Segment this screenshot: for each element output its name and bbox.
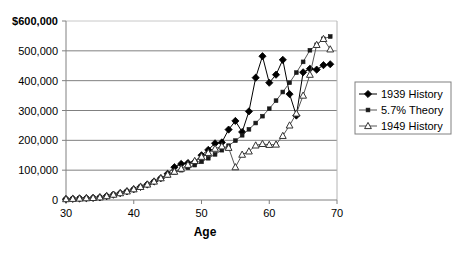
- y-tick-label: 0: [52, 194, 58, 206]
- data-point-marker: [206, 156, 210, 160]
- data-point-marker: [247, 127, 251, 131]
- data-point-marker: [327, 61, 334, 68]
- y-tick-label: 200,000: [18, 134, 58, 146]
- data-point-marker: [294, 71, 298, 75]
- chart-legend: 1939 History5.7% Theory1949 History: [355, 82, 451, 134]
- x-tick-label: 30: [60, 207, 72, 219]
- x-tick-labels: 3040506070: [60, 207, 343, 219]
- series-line: [66, 39, 330, 199]
- x-tick-label: 60: [263, 207, 275, 219]
- y-tick-label: 300,000: [18, 105, 58, 117]
- data-point-marker: [300, 92, 307, 98]
- data-point-marker: [288, 81, 292, 85]
- data-point-marker: [286, 90, 293, 97]
- series-line: [66, 37, 330, 200]
- x-tick-label: 40: [128, 207, 140, 219]
- data-series-layer: [62, 35, 333, 203]
- data-point-marker: [232, 164, 239, 170]
- series-2: [64, 35, 332, 201]
- data-point-marker: [259, 53, 266, 60]
- data-point-marker: [307, 71, 314, 77]
- data-point-marker: [233, 139, 237, 143]
- y-tick-label: 400,000: [18, 75, 58, 87]
- series-3: [63, 35, 334, 201]
- data-point-marker: [286, 122, 293, 128]
- x-tick-label: 70: [331, 207, 343, 219]
- data-point-marker: [281, 90, 285, 94]
- data-point-marker: [239, 151, 246, 157]
- y-tick-label: 100,000: [18, 164, 58, 176]
- y-tick-label: 500,000: [18, 45, 58, 57]
- data-point-marker: [274, 99, 278, 103]
- data-point-marker: [254, 121, 258, 125]
- x-tick-label: 50: [195, 207, 207, 219]
- data-point-marker: [366, 108, 370, 112]
- data-point-marker: [328, 35, 332, 39]
- y-tick-marks: [62, 21, 66, 200]
- legend-label: 1949 History: [381, 120, 443, 132]
- data-point-marker: [213, 152, 217, 156]
- legend-label: 5.7% Theory: [381, 104, 444, 116]
- data-point-marker: [279, 132, 286, 138]
- x-tick-marks: [66, 200, 337, 204]
- x-axis-title: Age: [194, 225, 217, 239]
- data-point-marker: [261, 114, 265, 118]
- data-point-marker: [300, 69, 307, 76]
- data-point-marker: [267, 107, 271, 111]
- data-point-marker: [279, 56, 286, 63]
- legend-label: 1939 History: [381, 88, 443, 100]
- data-point-marker: [240, 133, 244, 137]
- data-point-marker: [313, 66, 320, 73]
- line-chart: 0100,000200,000300,000400,000500,000$600…: [0, 0, 459, 254]
- data-point-marker: [308, 48, 312, 52]
- data-point-marker: [301, 60, 305, 64]
- data-point-marker: [259, 140, 266, 146]
- y-tick-label: $600,000: [12, 15, 58, 27]
- data-point-marker: [245, 108, 252, 115]
- data-point-marker: [320, 62, 327, 69]
- chart-container: 0100,000200,000300,000400,000500,000$600…: [0, 0, 459, 254]
- y-tick-labels: 0100,000200,000300,000400,000500,000$600…: [12, 15, 58, 206]
- data-point-marker: [200, 160, 204, 164]
- data-point-marker: [178, 165, 185, 171]
- data-point-marker: [327, 46, 334, 52]
